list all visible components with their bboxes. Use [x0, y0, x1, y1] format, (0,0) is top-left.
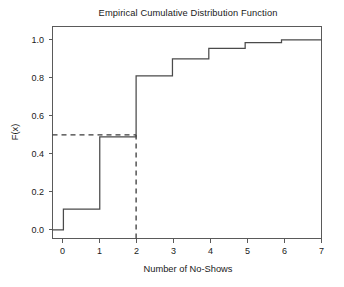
ecdf-chart: Empirical Cumulative Distribution Functi…: [0, 0, 344, 287]
x-tick-label: 6: [282, 246, 287, 256]
x-tick-label: 0: [60, 246, 65, 256]
y-axis-label: F(x): [10, 124, 20, 141]
y-tick-label: 0.2: [31, 187, 44, 197]
y-tick-label: 1.0: [31, 35, 44, 45]
y-tick-label: 0.8: [31, 73, 44, 83]
ecdf-figure: Empirical Cumulative Distribution Functi…: [0, 0, 344, 287]
y-tick-label: 0.6: [31, 111, 44, 121]
x-tick-label: 5: [245, 246, 250, 256]
x-tick-label: 3: [171, 246, 176, 256]
x-tick-label: 7: [319, 246, 324, 256]
x-tick-label: 2: [134, 246, 139, 256]
x-tick-label: 4: [208, 246, 213, 256]
chart-background: [0, 0, 344, 287]
x-tick-label: 1: [97, 246, 102, 256]
y-tick-label: 0.0: [31, 225, 44, 235]
x-axis-label: Number of No-Shows: [144, 264, 233, 274]
chart-title: Empirical Cumulative Distribution Functi…: [99, 8, 278, 18]
y-tick-label: 0.4: [31, 149, 44, 159]
